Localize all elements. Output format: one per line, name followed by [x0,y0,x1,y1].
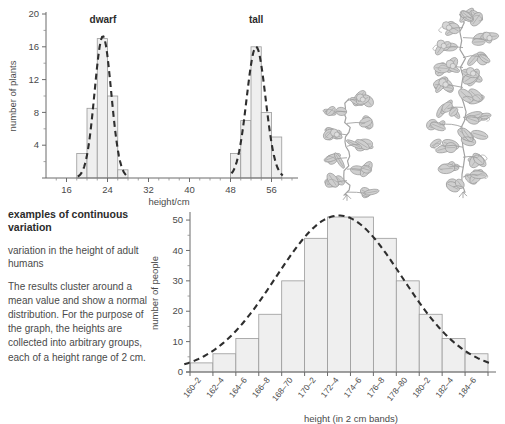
svg-text:12: 12 [28,74,39,85]
histogram-bar [213,354,236,372]
svg-text:40: 40 [172,245,183,256]
svg-text:56: 56 [266,184,277,195]
svg-text:24: 24 [102,184,113,195]
caption-heading: examples of continuous variation [8,208,148,235]
histogram-bar [272,137,282,178]
svg-text:32: 32 [143,184,154,195]
svg-text:10: 10 [172,336,183,347]
histogram-bar [350,217,373,372]
svg-text:48: 48 [225,184,236,195]
x-band-label: 184–6 [456,375,478,400]
histogram-bar [305,238,328,372]
x-band-label: 164–6 [227,375,249,400]
svg-text:0: 0 [178,366,183,377]
figure-page: 48121620number of plants162432404856heig… [0,0,505,424]
svg-text:40: 40 [184,184,195,195]
caption-text-block: examples of continuous variation variati… [8,208,148,365]
histogram-bar [108,96,118,178]
human-height-chart-svg: 01020304050number of people160–2162–4164… [140,200,505,424]
histogram-bar [231,153,241,178]
plant-height-chart: 48121620number of plants162432404856heig… [0,0,305,205]
human-height-chart: 01020304050number of people160–2162–4164… [140,200,505,424]
svg-text:16: 16 [28,41,39,52]
histogram-bar [442,339,465,372]
svg-text:30: 30 [172,275,183,286]
histogram-bar [373,238,396,372]
x-band-label: 160–2 [181,375,203,400]
tall-pea-plant-illustration [428,2,498,198]
series-label-dwarf: dwarf [90,14,117,25]
histogram-bar [236,339,259,372]
x-axis-title: height (in 2 cm bands) [304,413,398,424]
svg-text:number of plants: number of plants [7,60,18,131]
x-band-label: 180–2 [410,375,432,400]
histogram-bar [259,314,282,372]
x-band-label: 170–2 [296,375,318,400]
histogram-bar [396,281,419,372]
x-band-label: 168–70 [270,375,295,403]
plant-height-bars [77,39,282,178]
svg-text:number of people: number of people [149,256,160,330]
histogram-bar [261,112,271,178]
x-band-label: 166–8 [250,375,272,400]
x-band-label: 176–8 [364,375,386,400]
histogram-bar [328,217,351,372]
x-band-label: 172–4 [318,375,340,400]
human-height-bars [190,217,488,372]
x-band-label: 178–80 [384,375,409,403]
plant-height-chart-svg: 48121620number of plants162432404856heig… [0,0,305,205]
histogram-bar [251,47,261,178]
svg-text:4: 4 [34,139,39,150]
caption-subtitle: variation in the height of adult humans [8,244,148,271]
svg-text:20: 20 [28,8,39,19]
histogram-bar [282,281,305,372]
histogram-bar [190,363,213,372]
x-band-label: 162–4 [204,375,226,400]
dwarf-pea-plant-illustration [314,92,380,198]
svg-text:8: 8 [34,107,39,118]
svg-text:20: 20 [172,305,183,316]
svg-text:50: 50 [172,214,183,225]
histogram-bar [419,314,442,372]
caption-body: The results cluster around a mean value … [8,280,148,365]
svg-text:16: 16 [61,184,72,195]
x-band-label: 182–4 [433,375,455,400]
series-label-tall: tall [249,14,264,25]
x-band-label: 174–6 [341,375,363,400]
